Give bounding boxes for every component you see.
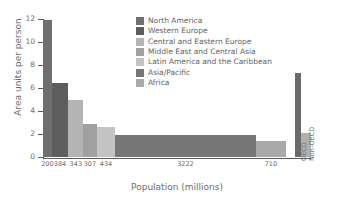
x-axis-tick-label: 710 (251, 161, 291, 168)
chart-legend: North AmericaWestern EuropeCentral and E… (136, 16, 272, 88)
y-axis-tick-label: 12 (0, 15, 43, 23)
legend-item-label: Central and Eastern Europe (148, 38, 251, 46)
y-axis-tick-label: 6 (0, 84, 43, 92)
chart-figure: Area units per person 024681012 20038434… (0, 0, 353, 216)
bar-central-and-eastern-europe (68, 100, 83, 158)
legend-item-label: North America (148, 17, 202, 25)
legend-item-label: Africa (148, 79, 169, 87)
x-axis-aggregate-label: OECD (301, 142, 308, 161)
legend-item: Central and Eastern Europe (136, 37, 272, 47)
legend-swatch-icon (136, 79, 144, 87)
legend-item-label: Western Europe (148, 27, 208, 35)
legend-swatch-icon (136, 27, 144, 35)
legend-swatch-icon (136, 69, 144, 77)
legend-swatch-icon (136, 48, 144, 56)
bar-asia-pacific (115, 135, 255, 157)
y-axis-tick-label: 4 (0, 107, 43, 115)
y-axis-tick-label: 2 (0, 130, 43, 138)
x-axis-title: Population (millions) (43, 182, 311, 192)
x-axis-aggregate-label: Non-OECD (309, 127, 316, 161)
legend-item: Middle East and Central Asia (136, 47, 272, 57)
x-axis-tick-label: 3222 (165, 161, 205, 168)
legend-item: Latin America and the Caribbean (136, 57, 272, 67)
bar-north-america (43, 20, 52, 157)
legend-item: Western Europe (136, 26, 272, 36)
legend-item-label: Middle East and Central Asia (148, 48, 256, 56)
legend-swatch-icon (136, 58, 144, 66)
bar-middle-east-and-central-asia (83, 124, 96, 157)
y-axis-tick-label: 0 (0, 153, 43, 161)
legend-item: Africa (136, 78, 272, 88)
bar-latin-america-and-the-caribbean (97, 127, 116, 157)
legend-item-label: Asia/Pacific (148, 69, 190, 77)
legend-item-label: Latin America and the Caribbean (148, 58, 272, 66)
legend-swatch-icon (136, 38, 144, 46)
bar-western-europe (52, 83, 69, 157)
y-axis-tick-label: 8 (0, 61, 43, 69)
x-axis-tick-label: 434 (86, 161, 126, 168)
x-axis-line (43, 158, 311, 159)
legend-swatch-icon (136, 17, 144, 25)
legend-item: Asia/Pacific (136, 67, 272, 77)
y-axis-tick-label: 10 (0, 38, 43, 46)
bar-africa (256, 141, 287, 157)
legend-item: North America (136, 16, 272, 26)
